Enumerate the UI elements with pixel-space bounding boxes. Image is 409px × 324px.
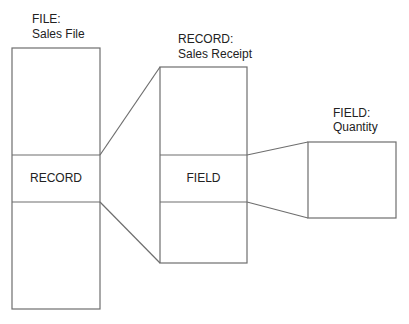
connector-file-record-bottom [100, 202, 160, 263]
record-name: Sales Receipt [178, 47, 252, 62]
connector-record-field-top [247, 142, 308, 155]
file-record-cell-label: RECORD [12, 171, 100, 185]
connector-record-field-bottom [247, 202, 308, 218]
connector-file-record-top [100, 67, 160, 155]
record-heading: RECORD: [178, 32, 233, 47]
record-box [160, 67, 247, 263]
field-box [308, 142, 396, 218]
file-name: Sales File [32, 27, 85, 42]
field-name: Quantity [333, 120, 378, 135]
file-record-field-diagram: FILE: Sales File RECORD RECORD: Sales Re… [0, 0, 409, 324]
record-field-cell-label: FIELD [160, 171, 247, 185]
file-heading: FILE: [32, 12, 61, 27]
field-heading: FIELD: [333, 106, 370, 121]
